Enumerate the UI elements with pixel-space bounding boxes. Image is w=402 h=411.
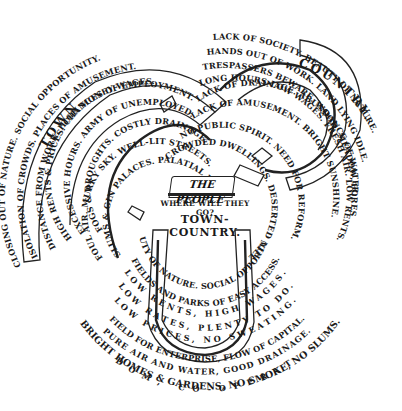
the-people-base: [168, 193, 235, 196]
town-country-title: TOWN-COUNTRY.: [150, 213, 260, 239]
